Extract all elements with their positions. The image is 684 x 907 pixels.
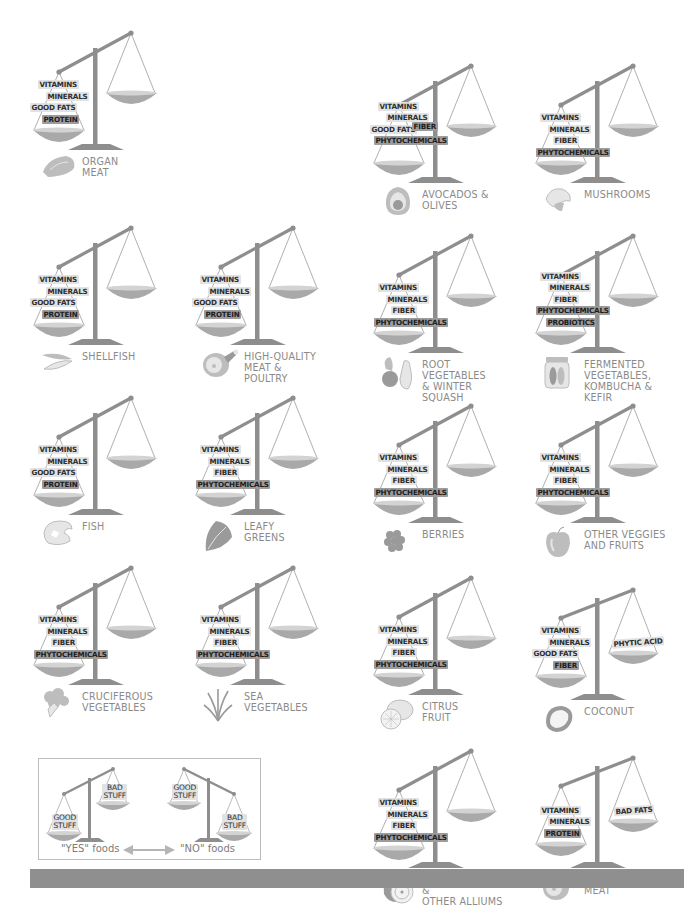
- tag-fiber: FIBER: [553, 295, 579, 304]
- scale-card-berries: VITAMINSMINERALSFIBERPHYTOCHEMICALSBERRI…: [340, 373, 508, 548]
- tag-good-fats: GOOD FATS: [192, 298, 239, 307]
- tag-phytic-acid: PHYTIC ACID: [612, 636, 665, 649]
- tag-vitamins: VITAMINS: [540, 453, 581, 462]
- bottom-bar: [30, 869, 684, 888]
- food-label: SHELLFISH: [82, 351, 136, 362]
- nutrient-tags: VITAMINSMINERALSGOOD FATSPROTEIN: [0, 365, 168, 525]
- tag-minerals: MINERALS: [46, 457, 89, 466]
- scale-card-fish: VITAMINSMINERALSGOOD FATSPROTEINFISH: [0, 365, 168, 540]
- scale-card-high-quality-meat: VITAMINSMINERALSGOOD FATSPROTEINHIGH-QUA…: [162, 195, 330, 370]
- nutrient-tags: VITAMINSMINERALSFIBERPHYTOCHEMICALSPROBI…: [502, 203, 670, 363]
- scale-card-mushrooms: VITAMINSMINERALSFIBERPHYTOCHEMICALSMUSHR…: [502, 33, 670, 208]
- tag-phytochemicals: PHYTOCHEMICALS: [374, 318, 448, 327]
- tag-good-fats: GOOD FATS: [30, 298, 77, 307]
- tag-minerals: MINERALS: [548, 638, 591, 647]
- seaweed-icon: [202, 687, 238, 723]
- organ-meat-icon: [40, 152, 76, 188]
- tag-good-fats: GOOD FATS: [30, 468, 77, 477]
- tag-minerals: MINERALS: [46, 627, 89, 636]
- tag-vitamins: VITAMINS: [200, 445, 241, 454]
- tag-protein: PROTEIN: [42, 310, 79, 319]
- food-label: OTHER VEGGIES AND FRUITS: [584, 529, 665, 551]
- tag-minerals: MINERALS: [208, 627, 251, 636]
- tag-phytochemicals: PHYTOCHEMICALS: [374, 136, 448, 145]
- scale-card-leafy-greens: VITAMINSMINERALSFIBERPHYTOCHEMICALSLEAFY…: [162, 365, 330, 540]
- tag-fiber: FIBER: [213, 638, 239, 647]
- tag-vitamins: VITAMINS: [378, 625, 419, 634]
- tag-vitamins: VITAMINS: [540, 626, 581, 635]
- nutrient-tags: VITAMINSMINERALSFIBERPHYTOCHEMICALS: [340, 373, 508, 533]
- tag-minerals: MINERALS: [548, 125, 591, 134]
- tag-protein: PROTEIN: [544, 829, 581, 838]
- tag-minerals: MINERALS: [548, 465, 591, 474]
- tag-minerals: MINERALS: [46, 92, 89, 101]
- tag-phytochemicals: PHYTOCHEMICALS: [536, 488, 610, 497]
- tag-vitamins: VITAMINS: [378, 102, 419, 111]
- tag-protein: PROTEIN: [204, 310, 241, 319]
- nutrient-tags: VITAMINSMINERALSFIBERPHYTOCHEMICALS: [340, 203, 508, 363]
- nutrient-tags: VITAMINSMINERALSFIBERPHYTOCHEMICALS: [162, 535, 330, 695]
- no-foods-caption: "NO" foods: [180, 843, 235, 854]
- tag-vitamins: VITAMINS: [378, 798, 419, 807]
- nutrient-tags: VITAMINSMINERALSGOOD FATSPROTEIN: [162, 195, 330, 355]
- tag-vitamins: VITAMINS: [38, 615, 79, 624]
- tag-vitamins: VITAMINS: [200, 275, 241, 284]
- tag-fiber: FIBER: [553, 476, 579, 485]
- tag-minerals: MINERALS: [208, 457, 251, 466]
- tag-phytochemicals: PHYTOCHEMICALS: [196, 480, 270, 489]
- tag-vitamins: VITAMINS: [38, 80, 79, 89]
- tag-fiber: FIBER: [391, 648, 417, 657]
- tag-vitamins: VITAMINS: [540, 806, 581, 815]
- tag-bad-fats: BAD FATS: [614, 805, 655, 817]
- nutrient-tags: VITAMINSMINERALSPROTEINBAD FATS: [502, 718, 670, 878]
- tag-vitamins: VITAMINS: [540, 272, 581, 281]
- legend-box: GOOD STUFF BAD STUFF GOOD STUFF BAD STUF…: [38, 758, 261, 860]
- no-scale-icon: [167, 767, 252, 842]
- tag-phytochemicals: PHYTOCHEMICALS: [374, 833, 448, 842]
- tag-vitamins: VITAMINS: [378, 453, 419, 462]
- tag-vitamins: VITAMINS: [200, 615, 241, 624]
- tag-vitamins: VITAMINS: [540, 113, 581, 122]
- tag-vitamins: VITAMINS: [38, 275, 79, 284]
- legend-yes-bad-stuff: BAD STUFF: [102, 784, 127, 800]
- food-label: CRUCIFEROUS VEGETABLES: [82, 691, 153, 713]
- tag-phytochemicals: PHYTOCHEMICALS: [374, 660, 448, 669]
- scale-card-avocados-olives: VITAMINSMINERALSGOOD FATSFIBERPHYTOCHEMI…: [340, 33, 508, 208]
- tag-phytochemicals: PHYTOCHEMICALS: [536, 148, 610, 157]
- tag-fiber: FIBER: [412, 122, 438, 131]
- nutrient-tags: VITAMINSMINERALSFIBERPHYTOCHEMICALS: [502, 33, 670, 193]
- legend-no-bad-stuff: BAD STUFF: [222, 814, 247, 830]
- scale-card-cruciferous: VITAMINSMINERALSFIBERPHYTOCHEMICALSCRUCI…: [0, 535, 168, 710]
- scale-card-fermented: VITAMINSMINERALSFIBERPHYTOCHEMICALSPROBI…: [502, 203, 670, 378]
- legend-no-good-stuff: GOOD STUFF: [172, 784, 198, 800]
- scale-card-onions-garlic: VITAMINSMINERALSFIBERPHYTOCHEMICALSONION…: [340, 718, 508, 893]
- nutrient-tags: VITAMINSMINERALSFIBERPHYTOCHEMICALS: [0, 535, 168, 695]
- food-label: BERRIES: [422, 529, 464, 540]
- tag-protein: PROTEIN: [42, 115, 79, 124]
- food-label: MUSHROOMS: [584, 189, 651, 200]
- tag-fiber: FIBER: [213, 468, 239, 477]
- scale-card-coconut: VITAMINSMINERALSGOOD FATSFIBERPHYTIC ACI…: [502, 550, 670, 725]
- food-label: SEA VEGETABLES: [244, 691, 308, 713]
- food-label: COCONUT: [584, 706, 634, 717]
- tag-minerals: MINERALS: [386, 113, 429, 122]
- scale-card-organ-meat: VITAMINSMINERALSGOOD FATSPROTEINORGAN ME…: [0, 0, 168, 175]
- nutrient-tags: VITAMINSMINERALSFIBERPHYTOCHEMICALS: [502, 373, 670, 533]
- tag-good-fats: GOOD FATS: [532, 649, 579, 658]
- yes-scale-icon: [46, 767, 130, 842]
- scale-card-conventional-meat: VITAMINSMINERALSPROTEINBAD FATSCONVENTIO…: [502, 718, 670, 893]
- tag-good-fats: GOOD FATS: [370, 125, 417, 134]
- tag-minerals: MINERALS: [548, 817, 591, 826]
- tag-minerals: MINERALS: [386, 295, 429, 304]
- broccoli-icon: [40, 687, 76, 723]
- scale-card-citrus: VITAMINSMINERALSFIBERPHYTOCHEMICALSCITRU…: [340, 545, 508, 720]
- tag-phytochemicals: PHYTOCHEMICALS: [196, 650, 270, 659]
- tag-minerals: MINERALS: [386, 637, 429, 646]
- food-label: ORGAN MEAT: [82, 156, 118, 178]
- scale-card-root-vegetables: VITAMINSMINERALSFIBERPHYTOCHEMICALSROOT …: [340, 203, 508, 378]
- tag-fiber: FIBER: [553, 136, 579, 145]
- scale-card-sea-vegetables: VITAMINSMINERALSFIBERPHYTOCHEMICALSSEA V…: [162, 535, 330, 710]
- tag-fiber: FIBER: [51, 638, 77, 647]
- nutrient-tags: VITAMINSMINERALSFIBERPHYTOCHEMICALS: [340, 545, 508, 705]
- tag-minerals: MINERALS: [208, 287, 251, 296]
